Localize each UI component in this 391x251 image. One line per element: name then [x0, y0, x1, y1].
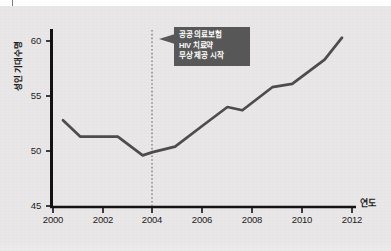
y-axis-title: 성인 기대수명 — [11, 31, 23, 101]
x-tick-label-2002: 2002 — [86, 214, 120, 225]
y-tick-label-45: 45 — [19, 200, 41, 211]
x-tick-label-2012: 2012 — [335, 214, 369, 225]
y-tick-label-50: 50 — [19, 145, 41, 156]
x-tick-label-2004: 2004 — [135, 214, 169, 225]
x-tick-label-2000: 2000 — [36, 214, 70, 225]
x-tick-label-2006: 2006 — [185, 214, 219, 225]
callout-line-2: HIV 치료약 — [179, 41, 246, 52]
x-axis-title: 연도 — [360, 196, 376, 209]
figure-container: 60 55 50 45 2000 2002 2004 2006 2008 201… — [0, 0, 391, 251]
callout-line-3: 무상 제공 시작 — [179, 51, 246, 62]
x-tick-label-2008: 2008 — [235, 214, 269, 225]
callout-arrow — [159, 34, 175, 44]
x-tick-label-2010: 2010 — [285, 214, 319, 225]
annotation-callout: 공공 의료보험 HIV 치료약 무상 제공 시작 — [174, 27, 250, 66]
callout-line-1: 공공 의료보험 — [179, 30, 246, 41]
